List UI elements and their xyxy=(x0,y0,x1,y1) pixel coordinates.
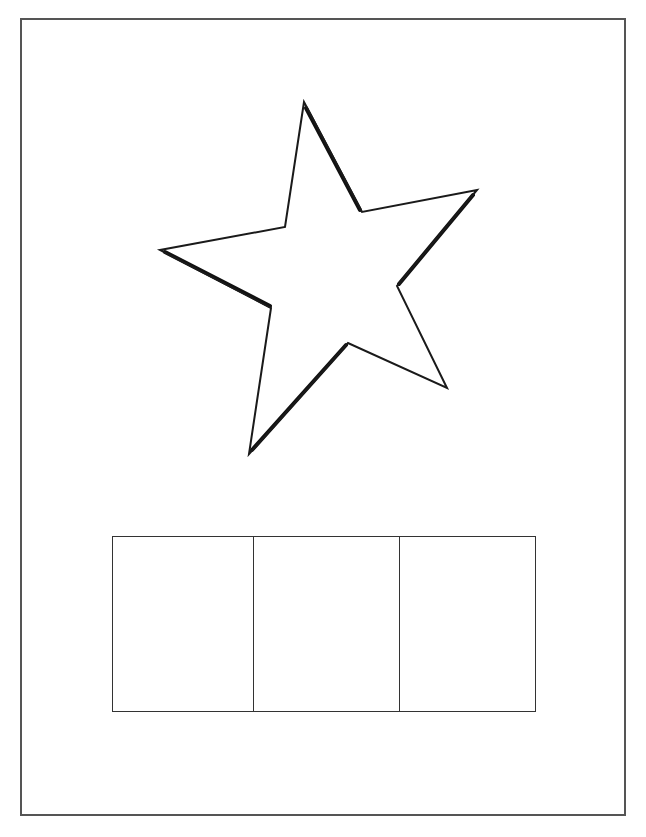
answer-box-1[interactable] xyxy=(113,537,253,711)
star-outline xyxy=(160,102,477,454)
answer-boxes xyxy=(112,536,536,712)
answer-box-2[interactable] xyxy=(253,537,399,711)
answer-box-3[interactable] xyxy=(399,537,535,711)
